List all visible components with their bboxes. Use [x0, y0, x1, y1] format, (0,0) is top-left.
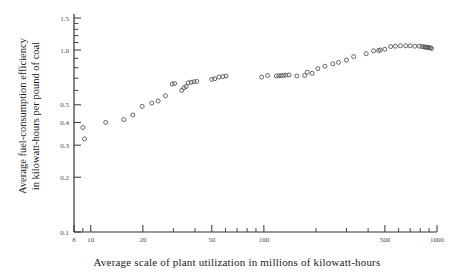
x-tick-label: 10	[87, 236, 95, 244]
data-point	[344, 58, 348, 62]
data-point	[81, 126, 85, 130]
data-point	[404, 44, 408, 48]
data-point	[180, 88, 184, 92]
data-point	[310, 71, 314, 75]
data-point	[331, 62, 335, 66]
data-point	[372, 49, 376, 53]
y-tick-label: 0.4	[60, 119, 69, 127]
data-series-plants	[81, 44, 434, 141]
x-tick-label: 100	[259, 236, 270, 244]
data-point	[295, 74, 299, 78]
data-point	[131, 113, 135, 117]
data-point	[364, 52, 368, 56]
data-point	[260, 75, 264, 79]
x-tick-label: 1000	[430, 236, 445, 244]
x-tick-label: 50	[208, 236, 216, 244]
data-point	[305, 70, 309, 74]
data-point	[217, 75, 221, 79]
data-point	[173, 81, 177, 85]
data-point	[150, 101, 154, 105]
y-tick-label: 0.5	[60, 101, 69, 109]
x-tick-label: 20	[139, 236, 147, 244]
data-point	[156, 99, 160, 103]
data-point	[163, 94, 167, 98]
data-point	[393, 44, 397, 48]
data-point	[337, 60, 341, 64]
y-axis-title-line1: Average fuel-consumption efficiency	[17, 38, 28, 194]
y-axis-title: Average fuel-consumption efficiency in k…	[0, 0, 58, 232]
y-tick-label: 1.5	[60, 15, 69, 23]
data-point	[398, 44, 402, 48]
data-point	[323, 64, 327, 68]
y-tick-label: 0.3	[60, 142, 69, 150]
data-point	[316, 67, 320, 71]
data-point	[195, 79, 199, 83]
data-point	[352, 55, 356, 59]
data-point	[389, 45, 393, 49]
data-point	[83, 137, 87, 141]
y-axis-title-line2: in kilowatt-hours per pound of coal	[29, 38, 42, 194]
data-point	[122, 118, 126, 122]
data-point	[413, 44, 417, 48]
chart-figure: Average fuel-consumption efficiency in k…	[0, 0, 474, 279]
y-tick-label: 1.0	[60, 47, 69, 55]
data-point	[266, 73, 270, 77]
x-tick-label: 8	[72, 236, 76, 244]
data-point	[140, 104, 144, 108]
x-axis-title: Average scale of plant utilization in mi…	[0, 256, 474, 268]
data-point	[104, 120, 108, 124]
scatter-plot-canvas: 0.10.20.30.40.51.01.581020501005001000	[0, 0, 474, 279]
x-tick-label: 500	[380, 236, 391, 244]
data-point	[408, 44, 412, 48]
y-tick-label: 0.1	[60, 229, 69, 237]
y-tick-label: 0.2	[60, 174, 69, 182]
data-point	[383, 47, 387, 51]
